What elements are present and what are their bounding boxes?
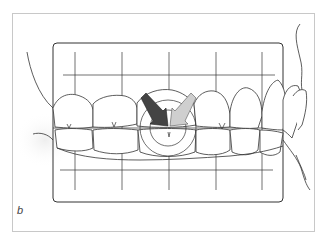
lower-teeth xyxy=(55,129,283,161)
dental-grid-illustration xyxy=(0,0,328,247)
panel-label: b xyxy=(17,204,23,216)
